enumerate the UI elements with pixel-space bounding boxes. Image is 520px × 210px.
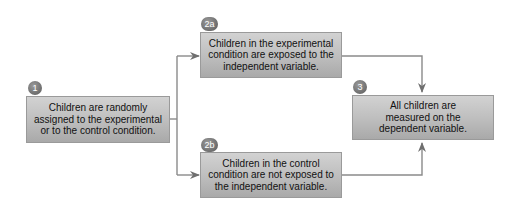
step-badge-2a: 2a (201, 17, 218, 31)
arrow-2b-to-3 (342, 143, 422, 175)
step-box-1: Children are randomly assigned to the ex… (26, 96, 170, 143)
step-badge-1: 1 (28, 81, 42, 95)
step-box-2b: Children in the control condition are no… (200, 152, 342, 198)
step-text-3: All children are measured on the depende… (367, 100, 479, 135)
step-badge-3: 3 (353, 80, 367, 94)
step-box-2a: Children in the experimental condition a… (200, 32, 342, 78)
step-text-1: Children are randomly assigned to the ex… (33, 102, 163, 137)
step-box-3: All children are measured on the depende… (352, 95, 494, 140)
step-badge-2b: 2b (201, 138, 218, 152)
step-text-2b: Children in the control condition are no… (207, 158, 335, 193)
step-text-2a: Children in the experimental condition a… (207, 38, 335, 73)
